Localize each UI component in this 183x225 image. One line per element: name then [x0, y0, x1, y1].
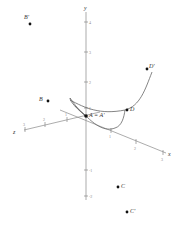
point-d: D [126, 106, 135, 112]
svg-text:C: C [121, 183, 126, 189]
svg-text:-1: -1 [89, 168, 92, 173]
svg-text:C': C' [130, 208, 136, 214]
svg-text:1: 1 [109, 134, 111, 139]
x-axis [60, 110, 166, 153]
curve-a-to-d-prime [70, 72, 152, 112]
svg-text:4: 4 [89, 20, 91, 25]
z-axis-label: z [12, 129, 16, 135]
svg-text:D: D [129, 106, 135, 112]
x-axis-label: x [167, 151, 171, 157]
point-d-prime: D' [146, 63, 156, 70]
coordinate-diagram: y 4 3 2 1 -1 -2 x 1 2 3 z 1 2 3 [0, 0, 183, 225]
svg-text:1: 1 [65, 112, 67, 117]
svg-text:A = A': A = A' [88, 112, 105, 118]
svg-text:2: 2 [134, 146, 136, 151]
y-axis-label: y [83, 5, 87, 11]
point-c-prime: C' [126, 208, 136, 214]
point-origin: A = A' [84, 112, 105, 118]
point-c: C [117, 183, 126, 189]
svg-text:B': B' [24, 14, 30, 20]
svg-text:3: 3 [161, 157, 163, 162]
svg-text:2: 2 [89, 80, 91, 85]
svg-text:3: 3 [23, 122, 25, 127]
point-b-prime: B' [24, 14, 31, 25]
svg-text:B: B [39, 96, 43, 102]
svg-text:3: 3 [89, 50, 91, 55]
svg-text:-2: -2 [89, 194, 92, 199]
svg-text:2: 2 [43, 117, 45, 122]
svg-text:D': D' [148, 63, 155, 69]
point-b: B [39, 96, 49, 102]
